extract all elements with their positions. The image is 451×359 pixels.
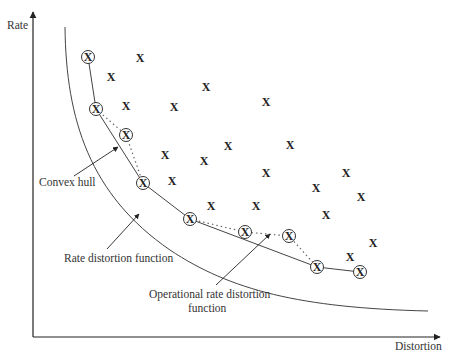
operational-rd-label-line1: Operational rate distortion <box>149 288 270 300</box>
x-mark: X <box>322 208 331 222</box>
x-mark: X <box>92 102 101 116</box>
operational-rd-arrow <box>216 234 270 285</box>
x-mark: X <box>170 100 179 114</box>
x-mark: X <box>136 51 145 65</box>
x-mark: X <box>369 236 378 250</box>
x-mark: X <box>84 50 93 64</box>
x-mark: X <box>202 80 211 94</box>
rate-distortion-label: Rate distortion function <box>64 252 173 264</box>
rate-distortion-arrow <box>107 214 139 249</box>
x-mark: X <box>122 128 131 142</box>
rate-distortion-curve <box>65 27 428 311</box>
convex-hull-arrow <box>74 147 118 176</box>
x-axis-label: Distortion <box>395 340 442 352</box>
x-mark: X <box>313 260 322 274</box>
x-mark: X <box>346 250 355 264</box>
convex-hull-line <box>88 57 360 272</box>
x-mark: X <box>312 181 321 195</box>
x-mark: X <box>139 176 148 190</box>
x-mark: X <box>122 99 131 113</box>
x-mark: X <box>200 154 209 168</box>
x-mark: X <box>357 190 366 204</box>
x-mark: X <box>168 174 177 188</box>
x-mark: X <box>186 212 195 226</box>
x-mark: X <box>207 199 216 213</box>
x-mark: X <box>262 166 271 180</box>
x-mark: X <box>285 229 294 243</box>
operational-rd-label-line2: function <box>188 302 226 314</box>
x-mark: X <box>356 265 365 279</box>
x-mark: X <box>252 199 261 213</box>
convex-hull-label: Convex hull <box>39 176 96 188</box>
x-mark: X <box>161 148 170 162</box>
x-mark: X <box>342 166 351 180</box>
x-mark: X <box>286 138 295 152</box>
x-mark: X <box>262 95 271 109</box>
x-mark: X <box>107 70 116 84</box>
y-axis-label: Rate <box>7 19 28 31</box>
x-mark: X <box>241 225 250 239</box>
x-mark: X <box>224 139 233 153</box>
circled-points: XXXXXXXXX <box>82 50 367 279</box>
